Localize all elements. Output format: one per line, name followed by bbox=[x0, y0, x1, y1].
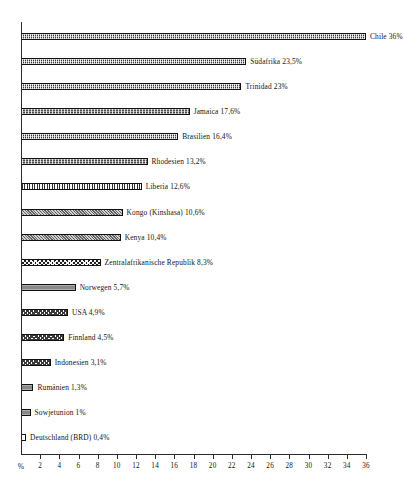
x-axis-tick bbox=[98, 454, 99, 459]
bar-sowjetunion bbox=[21, 409, 31, 416]
bar-liberia bbox=[21, 183, 142, 190]
bar-row: Chile 36% bbox=[21, 26, 403, 46]
bar-row: Finnland 4,5% bbox=[21, 327, 114, 347]
x-axis-tick-label: 16 bbox=[171, 462, 179, 470]
bar-row: Jamaica 17,6% bbox=[21, 101, 240, 121]
bar-finnland bbox=[21, 334, 64, 341]
x-axis-tick-label: 10 bbox=[113, 462, 121, 470]
bar-label: Chile 36% bbox=[366, 32, 403, 41]
x-axis-tick bbox=[347, 454, 348, 459]
x-axis-tick-label: 14 bbox=[151, 462, 159, 470]
bar-row: Brasilien 16,4% bbox=[21, 126, 232, 146]
bar-row: Indonesien 3,1% bbox=[21, 352, 107, 372]
x-axis-origin-label: % bbox=[18, 462, 25, 471]
bar-s-dafrika bbox=[21, 58, 246, 65]
bar-label: Zentralafrikanische Republik 8,3% bbox=[101, 258, 214, 267]
bar-label: Liberia 12,6% bbox=[142, 182, 190, 191]
x-axis-tick bbox=[309, 454, 310, 459]
x-axis-tick-label: 8 bbox=[96, 462, 100, 470]
bar-row: Zentralafrikanische Republik 8,3% bbox=[21, 252, 213, 272]
y-axis-line bbox=[21, 22, 22, 454]
bar-label: Rhodesien 13,2% bbox=[148, 157, 206, 166]
x-axis-tick bbox=[79, 454, 80, 459]
bar-rum-nien bbox=[21, 384, 33, 391]
x-axis-tick-label: 2 bbox=[38, 462, 42, 470]
x-axis-tick-label: 26 bbox=[266, 462, 274, 470]
bar-norwegen bbox=[21, 284, 76, 291]
bar-kenya bbox=[21, 234, 121, 241]
bar-label: Brasilien 16,4% bbox=[178, 132, 232, 141]
bar-trinidad bbox=[21, 83, 241, 90]
bar-rhodesien bbox=[21, 158, 148, 165]
bar-row: Kenya 10,4% bbox=[21, 227, 167, 247]
bar-kongo-kinshasa bbox=[21, 209, 123, 216]
x-axis-tick bbox=[40, 454, 41, 459]
bar-label: Norwegen 5,7% bbox=[76, 283, 130, 292]
bar-label: Finnland 4,5% bbox=[64, 333, 113, 342]
bar-label: Deutschland (BRD) 0,4% bbox=[26, 433, 109, 442]
x-axis-tick bbox=[251, 454, 252, 459]
x-axis-tick bbox=[136, 454, 137, 459]
x-axis-tick-label: 34 bbox=[343, 462, 351, 470]
x-axis-tick-label: 18 bbox=[190, 462, 198, 470]
x-axis-tick bbox=[59, 454, 60, 459]
bar-row: Südafrika 23,5% bbox=[21, 51, 302, 71]
bar-chile bbox=[21, 33, 366, 40]
x-axis-tick-label: 4 bbox=[57, 462, 61, 470]
x-axis-tick bbox=[232, 454, 233, 459]
bar-label: Sowjetunion 1% bbox=[31, 408, 86, 417]
x-axis-tick bbox=[194, 454, 195, 459]
bar-label: Kongo (Kinshasa) 10,6% bbox=[123, 208, 205, 217]
x-axis-tick-label: 36 bbox=[362, 462, 370, 470]
bar-label: USA 4,9% bbox=[68, 308, 105, 317]
bar-label: Rumänien 1,3% bbox=[33, 383, 87, 392]
x-axis-tick bbox=[289, 454, 290, 459]
x-axis-tick bbox=[117, 454, 118, 459]
x-axis-tick-label: 32 bbox=[324, 462, 332, 470]
bar-label: Südafrika 23,5% bbox=[246, 57, 302, 66]
x-axis-tick-label: 22 bbox=[228, 462, 236, 470]
bar-row: Trinidad 23% bbox=[21, 76, 288, 96]
bar-row: Rhodesien 13,2% bbox=[21, 152, 206, 172]
bar-label: Indonesien 3,1% bbox=[51, 358, 107, 367]
x-axis-tick bbox=[213, 454, 214, 459]
x-axis-tick bbox=[366, 454, 367, 459]
bar-brasilien bbox=[21, 133, 178, 140]
x-axis-tick-label: 6 bbox=[77, 462, 81, 470]
x-axis-tick bbox=[270, 454, 271, 459]
x-axis-tick bbox=[155, 454, 156, 459]
x-axis-tick-label: 28 bbox=[286, 462, 294, 470]
plot-area: Chile 36%Südafrika 23,5%Trinidad 23%Jama… bbox=[21, 24, 375, 449]
bar-row: Liberia 12,6% bbox=[21, 177, 190, 197]
x-axis-tick bbox=[328, 454, 329, 459]
bar-row: Kongo (Kinshasa) 10,6% bbox=[21, 202, 205, 222]
x-axis-tick bbox=[174, 454, 175, 459]
bar-indonesien bbox=[21, 359, 51, 366]
x-axis-tick-label: 24 bbox=[247, 462, 255, 470]
bar-label: Kenya 10,4% bbox=[121, 233, 167, 242]
bar-row: Deutschland (BRD) 0,4% bbox=[21, 428, 109, 448]
x-axis-tick-label: 20 bbox=[209, 462, 217, 470]
bar-row: Norwegen 5,7% bbox=[21, 277, 130, 297]
x-axis-tick-label: 30 bbox=[305, 462, 313, 470]
bar-label: Trinidad 23% bbox=[241, 82, 287, 91]
bar-label: Jamaica 17,6% bbox=[190, 107, 241, 116]
bar-usa bbox=[21, 309, 68, 316]
bar-jamaica bbox=[21, 108, 190, 115]
bar-zentralafrikanische-republik bbox=[21, 259, 101, 266]
bar-row: Rumänien 1,3% bbox=[21, 377, 87, 397]
bar-row: Sowjetunion 1% bbox=[21, 403, 86, 423]
bar-row: USA 4,9% bbox=[21, 302, 105, 322]
x-axis-tick-label: 12 bbox=[132, 462, 140, 470]
